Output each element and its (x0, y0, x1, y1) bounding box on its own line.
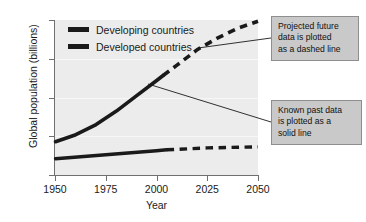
x-tick-1950 (55, 176, 56, 181)
annotation-projected-future: Projected future data is plotted as a da… (271, 16, 359, 61)
y-axis-title: Global population (billions) (27, 6, 39, 166)
annotation-known-line-2: is plotted as a (278, 116, 356, 127)
x-tick-label-2050: 2050 (238, 183, 278, 195)
x-tick-label-2000: 2000 (137, 183, 177, 195)
y-axis-line (54, 20, 55, 176)
chart-figure: 8 6 4 2 0 1950 1975 2000 2025 2050 Globa… (0, 0, 366, 222)
y-tick-2 (49, 136, 54, 137)
y-tick-4 (49, 98, 54, 99)
legend-item-developed: Developed countries (68, 39, 194, 54)
line-swatch-icon (68, 27, 89, 32)
annotation-known-past: Known past data is plotted as a solid li… (271, 100, 362, 145)
y-tick-0 (49, 175, 54, 176)
x-tick-2050 (258, 176, 259, 181)
legend-label-developing: Developing countries (96, 24, 194, 36)
x-tick-label-1975: 1975 (86, 183, 126, 195)
x-tick-label-1950: 1950 (35, 183, 75, 195)
annotation-projected-line-1: Projected future (278, 21, 353, 32)
x-axis-title: Year (55, 199, 258, 211)
y-tick-6 (49, 59, 54, 60)
annotation-projected-line-3: as a dashed line (278, 44, 353, 55)
legend: Developing countries Developed countries (68, 22, 194, 56)
x-tick-1975 (106, 176, 107, 181)
annotation-known-line-3: solid line (278, 128, 356, 139)
annotation-projected-line-2: data is plotted (278, 32, 353, 43)
x-tick-2025 (207, 176, 208, 181)
line-swatch-icon (68, 44, 89, 49)
x-tick-label-2025: 2025 (187, 183, 227, 195)
x-tick-2000 (157, 176, 158, 181)
annotation-known-line-1: Known past data (278, 105, 356, 116)
legend-label-developed: Developed countries (96, 41, 192, 53)
y-tick-8 (49, 20, 54, 21)
legend-item-developing: Developing countries (68, 22, 194, 37)
